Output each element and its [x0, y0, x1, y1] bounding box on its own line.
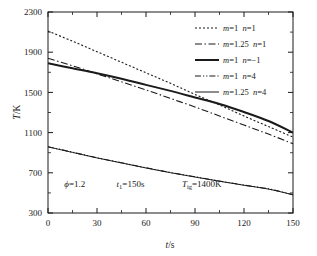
legend-label-4: m=1.25 n=4: [223, 87, 267, 97]
x-tick-label: 120: [237, 218, 251, 228]
chart-legend: m=1 n=1m=1.25 n=1m=1 n=−1m=1 n=4m=1.25 n…: [195, 23, 267, 97]
legend-label-1: m=1.25 n=1: [223, 39, 266, 49]
x-tick-label: 60: [142, 218, 152, 228]
temperature-vs-time-chart: 3007001100150019002300 0306090120150 m=1…: [0, 0, 317, 256]
annotation-burn-time: t1=150s: [117, 179, 145, 190]
svg-text:T/K: T/K: [12, 104, 22, 119]
y-tick-label: 1500: [24, 88, 43, 98]
x-tick-label: 0: [46, 218, 51, 228]
x-tick-label: 30: [93, 218, 103, 228]
figure-canvas: 3007001100150019002300 0306090120150 m=1…: [0, 0, 317, 256]
plot-annotations: ϕ=1.2t1=150sTig=1400K: [64, 179, 222, 190]
y-tick-label: 700: [29, 168, 43, 178]
x-tick-label: 90: [191, 218, 201, 228]
y-tick-label: 1900: [24, 47, 43, 57]
legend-label-0: m=1 n=1: [223, 23, 256, 33]
y-tick-label: 300: [29, 208, 43, 218]
legend-label-3: m=1 n=4: [223, 71, 256, 81]
annotation-equivalence-ratio: ϕ=1.2: [64, 179, 85, 189]
y-tick-label: 2300: [24, 7, 43, 17]
y-axis-title: T/K: [12, 104, 22, 119]
y-axis-tick-labels: 3007001100150019002300: [24, 7, 43, 218]
annotation-ignition-temperature: Tig=1400K: [182, 179, 222, 190]
series-line-2: [48, 63, 293, 132]
y-tick-label: 1100: [24, 128, 42, 138]
x-axis-title: t/s: [166, 240, 175, 250]
x-axis-tick-labels: 0306090120150: [46, 218, 301, 228]
legend-label-2: m=1 n=−1: [223, 55, 261, 65]
svg-text:t/s: t/s: [166, 240, 175, 250]
x-tick-label: 150: [286, 218, 300, 228]
